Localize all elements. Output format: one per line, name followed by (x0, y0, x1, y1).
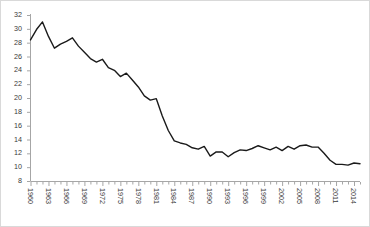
x-axis-tick-label: 1963 (44, 188, 52, 204)
y-axis-tick-label: 22 (2, 80, 22, 88)
x-axis-tick-label: 1990 (205, 188, 213, 204)
x-axis-tick-label: 1984 (169, 188, 177, 204)
y-axis-tick-label: 32 (2, 11, 22, 19)
x-axis-tick-label: 2005 (295, 188, 303, 204)
y-axis-tick-label: 12 (2, 149, 22, 157)
chart-container: 3230282624222018161412108 19601963196619… (0, 0, 370, 227)
x-axis-tick-label: 1975 (116, 188, 124, 204)
y-axis-tick-label: 26 (2, 53, 22, 61)
y-axis-ticks (27, 16, 31, 182)
x-axis-tick-label: 2011 (331, 188, 339, 203)
y-axis-tick-label: 28 (2, 39, 22, 47)
axis-group (27, 14, 361, 186)
y-axis-tick-label: 16 (2, 122, 22, 130)
x-axis-tick-label: 1972 (98, 188, 106, 204)
y-axis-tick-label: 14 (2, 136, 22, 144)
x-axis-tick-label: 1969 (80, 188, 88, 204)
x-axis-tick-label: 2014 (349, 188, 357, 204)
x-axis-ticks (31, 182, 361, 186)
x-axis-tick-label: 1978 (134, 188, 142, 204)
x-axis-tick-label: 1981 (152, 188, 160, 204)
y-axis-tick-label: 24 (2, 66, 22, 74)
y-axis-tick-label: 18 (2, 108, 22, 116)
x-axis-tick-label: 1966 (62, 188, 70, 204)
x-axis-tick-label: 1999 (259, 188, 267, 204)
y-axis-tick-label: 20 (2, 94, 22, 102)
y-axis-tick-label: 30 (2, 25, 22, 33)
data-series-line (31, 22, 361, 165)
y-axis-tick-label: 8 (2, 177, 22, 185)
x-axis-tick-label: 2008 (313, 188, 321, 204)
x-axis-tick-label: 2002 (277, 188, 285, 204)
x-axis-tick-label: 1996 (241, 188, 249, 204)
x-axis-tick-label: 1993 (223, 188, 231, 204)
y-axis-tick-label: 10 (2, 163, 22, 171)
x-axis-tick-label: 1987 (187, 188, 195, 204)
x-axis-tick-label: 1960 (26, 188, 34, 204)
